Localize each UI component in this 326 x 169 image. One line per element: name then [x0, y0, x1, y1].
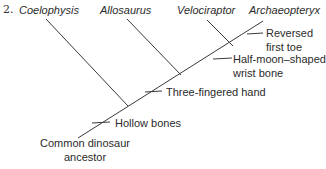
taxon-velociraptor: Velociraptor	[177, 4, 235, 16]
trait-line-2: first toe	[266, 41, 313, 53]
root-line-2: ancestor	[38, 151, 132, 163]
trait-line-1: Half-moon–shaped	[233, 53, 326, 65]
question-number: 2.	[3, 3, 14, 16]
trait-line-2: wrist bone	[233, 67, 326, 79]
trait-three-fingered-hand: Three-fingered hand	[166, 86, 266, 98]
root-line-1: Common dinosaur	[38, 137, 132, 149]
taxon-allosaurus: Allosaurus	[100, 4, 151, 16]
root-common-dinosaur-ancestor: Common dinosaur ancestor	[38, 137, 132, 163]
trait-reversed-first-toe: Reversed first toe	[266, 27, 313, 53]
trait-hollow-bones: Hollow bones	[115, 117, 181, 129]
taxon-coelophysis: Coelophysis	[19, 4, 79, 16]
trait-line-1: Reversed	[266, 27, 313, 39]
trait-half-moon-wrist-bone: Half-moon–shaped wrist bone	[233, 53, 326, 79]
taxon-archaeopteryx: Archaeopteryx	[249, 4, 320, 16]
